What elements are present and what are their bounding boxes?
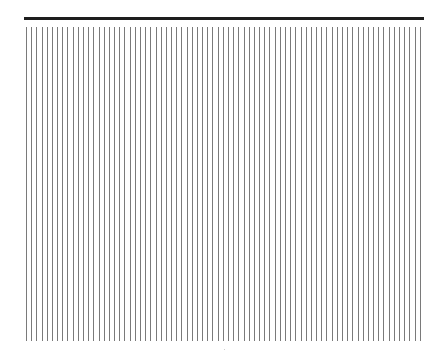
vertical-line: [306, 27, 307, 341]
vertical-line: [130, 27, 131, 341]
vertical-line: [399, 27, 400, 341]
vertical-line: [207, 27, 208, 341]
vertical-line: [36, 27, 37, 341]
vertical-line: [342, 27, 343, 341]
vertical-line: [254, 27, 255, 341]
vertical-line: [171, 27, 172, 341]
vertical-line: [389, 27, 390, 341]
vertical-line: [93, 27, 94, 341]
vertical-line: [166, 27, 167, 341]
faint-dot-mark: [224, 349, 225, 350]
vertical-line: [197, 27, 198, 341]
vertical-line: [176, 27, 177, 341]
vertical-line-pattern: [26, 27, 422, 341]
vertical-line: [321, 27, 322, 341]
vertical-line: [347, 27, 348, 341]
vertical-line: [373, 27, 374, 341]
vertical-line: [223, 27, 224, 341]
vertical-line: [31, 27, 32, 341]
vertical-line: [57, 27, 58, 341]
vertical-line: [259, 27, 260, 341]
vertical-line: [363, 27, 364, 341]
vertical-line: [156, 27, 157, 341]
vertical-line: [83, 27, 84, 341]
vertical-line: [218, 27, 219, 341]
vertical-line: [109, 27, 110, 341]
vertical-line: [290, 27, 291, 341]
vertical-line: [415, 27, 416, 341]
vertical-line: [337, 27, 338, 341]
vertical-line: [119, 27, 120, 341]
vertical-line: [161, 27, 162, 341]
vertical-line: [145, 27, 146, 341]
vertical-line: [181, 27, 182, 341]
vertical-line: [233, 27, 234, 341]
vertical-line: [52, 27, 53, 341]
vertical-line: [275, 27, 276, 341]
vertical-line: [332, 27, 333, 341]
vertical-line: [26, 27, 27, 341]
vertical-line: [352, 27, 353, 341]
vertical-line: [269, 27, 270, 341]
vertical-line: [285, 27, 286, 341]
vertical-line: [383, 27, 384, 341]
vertical-line: [47, 27, 48, 341]
vertical-line: [244, 27, 245, 341]
vertical-line: [62, 27, 63, 341]
vertical-line: [409, 27, 410, 341]
vertical-line: [316, 27, 317, 341]
vertical-line: [150, 27, 151, 341]
vertical-line: [104, 27, 105, 341]
vertical-line: [135, 27, 136, 341]
vertical-line: [140, 27, 141, 341]
vertical-line: [73, 27, 74, 341]
vertical-line: [358, 27, 359, 341]
vertical-line: [301, 27, 302, 341]
vertical-line: [67, 27, 68, 341]
vertical-line: [202, 27, 203, 341]
vertical-line: [212, 27, 213, 341]
vertical-line: [187, 27, 188, 341]
vertical-line: [114, 27, 115, 341]
vertical-line: [420, 27, 421, 341]
vertical-line: [264, 27, 265, 341]
vertical-line: [238, 27, 239, 341]
vertical-line: [99, 27, 100, 341]
vertical-line: [88, 27, 89, 341]
vertical-line: [378, 27, 379, 341]
vertical-line: [78, 27, 79, 341]
vertical-line: [280, 27, 281, 341]
top-horizontal-rule: [24, 17, 424, 20]
vertical-line: [404, 27, 405, 341]
vertical-line: [394, 27, 395, 341]
vertical-line: [311, 27, 312, 341]
vertical-line: [295, 27, 296, 341]
vertical-line: [249, 27, 250, 341]
vertical-line: [326, 27, 327, 341]
vertical-line: [368, 27, 369, 341]
vertical-line: [228, 27, 229, 341]
vertical-line: [192, 27, 193, 341]
vertical-line: [124, 27, 125, 341]
vertical-line: [42, 27, 43, 341]
